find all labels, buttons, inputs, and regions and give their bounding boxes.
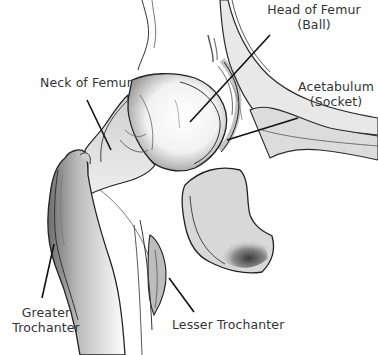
label-head-of-femur: Head of Femur (Ball) bbox=[252, 2, 376, 32]
label-lesser-trochanter: Lesser Trochanter bbox=[172, 317, 292, 332]
label-head-of-femur-line1: Head of Femur bbox=[252, 2, 376, 17]
label-greater-trochanter-line1: Greater bbox=[6, 305, 86, 320]
label-lesser-trochanter-line1: Lesser Trochanter bbox=[172, 317, 292, 332]
hip-joint-illustration bbox=[0, 0, 378, 355]
label-head-of-femur-line2: (Ball) bbox=[252, 17, 376, 32]
ligament-strands bbox=[138, 0, 217, 70]
lesser-trochanter bbox=[134, 220, 166, 355]
leader-lesser-trochanter bbox=[169, 278, 194, 312]
label-acetabulum-line2: (Socket) bbox=[294, 94, 378, 109]
label-acetabulum-line1: Acetabulum bbox=[294, 79, 378, 94]
label-greater-trochanter-line2: Trochanter bbox=[6, 320, 86, 335]
label-neck-of-femur: Neck of Femur bbox=[40, 75, 130, 90]
label-greater-trochanter: Greater Trochanter bbox=[6, 305, 86, 335]
leader-greater-trochanter bbox=[42, 244, 54, 298]
hip-anatomy-figure: Head of Femur (Ball) Neck of Femur Aceta… bbox=[0, 0, 378, 355]
label-acetabulum: Acetabulum (Socket) bbox=[294, 79, 378, 109]
label-neck-of-femur-line1: Neck of Femur bbox=[40, 75, 130, 90]
